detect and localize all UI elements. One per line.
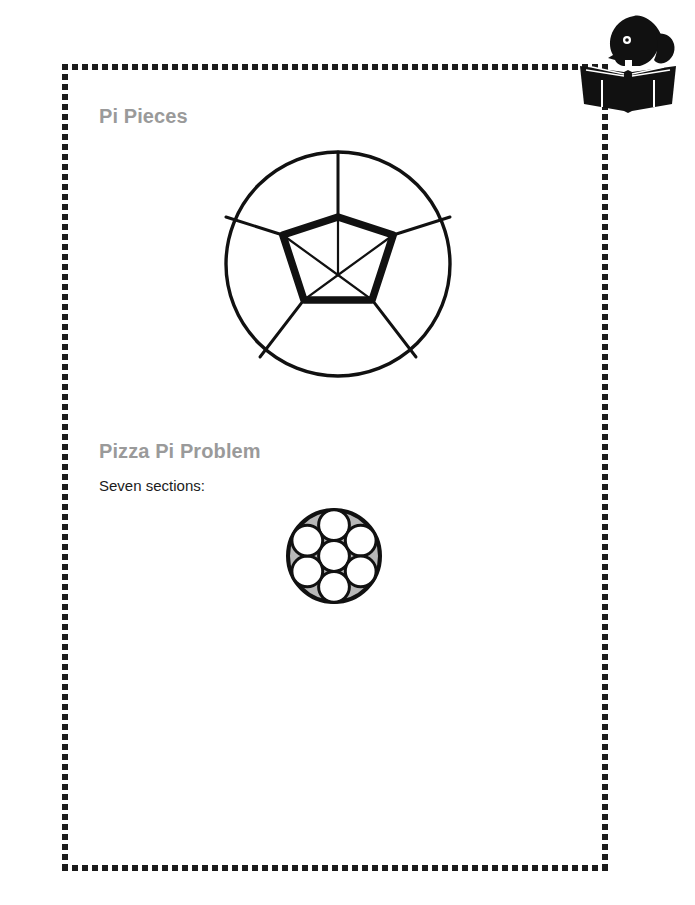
worksheet-page: Pi Pieces Pizza Pi Problem Seven section… [0, 0, 695, 905]
section-heading-pi-pieces: Pi Pieces [99, 105, 188, 128]
seven-sections-label: Seven sections: [99, 477, 205, 494]
reader-silhouette-logo [578, 14, 678, 118]
section-heading-pizza-pi-problem: Pizza Pi Problem [99, 440, 261, 463]
seven-circle-packing-diagram [278, 500, 390, 612]
circle-pentagon-diagram [210, 140, 466, 390]
